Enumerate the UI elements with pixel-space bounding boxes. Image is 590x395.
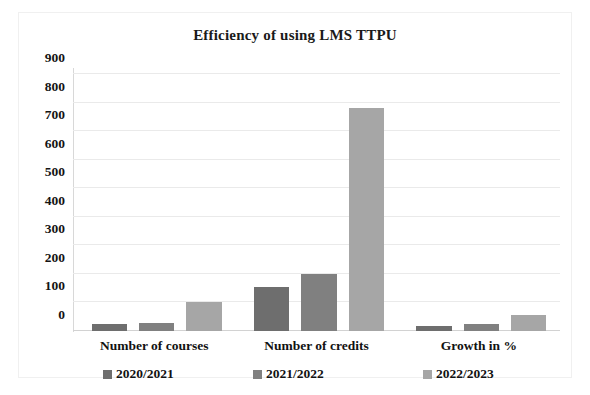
legend-swatch-icon <box>253 370 262 379</box>
chart-title: Efficiency of using LMS TTPU <box>19 27 571 44</box>
x-axis-label-3: Growth in % <box>398 338 560 354</box>
legend-label: 2022/2023 <box>436 366 494 382</box>
y-axis-tick-label: 900 <box>45 50 65 66</box>
bar[interactable] <box>464 324 499 331</box>
y-axis-tick-label: 200 <box>45 250 65 266</box>
bar[interactable] <box>416 326 451 331</box>
plot-area: 9008007006005004003002001000 <box>73 62 560 331</box>
legend-swatch-icon <box>103 370 112 379</box>
bar-group <box>92 74 222 331</box>
legend-item-2021-2022[interactable]: 2021/2022 <box>253 366 324 382</box>
x-axis-category-labels: Number of coursesNumber of creditsGrowth… <box>73 338 560 358</box>
chart-legend: 2020/20212021/20222022/2023 <box>73 366 573 388</box>
bars-layer <box>73 74 560 331</box>
plot-inner: 9008007006005004003002001000 <box>73 74 560 331</box>
bar[interactable] <box>511 315 546 331</box>
legend-swatch-icon <box>423 370 432 379</box>
y-axis-tick-label: 800 <box>45 79 65 95</box>
bar[interactable] <box>254 287 289 331</box>
y-axis-tick-label: 300 <box>45 221 65 237</box>
x-axis-label-2: Number of credits <box>235 338 397 354</box>
bar[interactable] <box>186 302 221 331</box>
y-axis-tick-label: 700 <box>45 107 65 123</box>
y-axis-tick-label: 0 <box>58 307 65 323</box>
y-axis-tick-label: 600 <box>45 136 65 152</box>
y-axis-tick-label: 100 <box>45 278 65 294</box>
bar[interactable] <box>139 323 174 331</box>
y-axis-tick-label: 500 <box>45 164 65 180</box>
x-axis-label-1: Number of courses <box>73 338 235 354</box>
legend-item-2022-2023[interactable]: 2022/2023 <box>423 366 494 382</box>
bar-group <box>254 74 384 331</box>
chart-frame: Efficiency of using LMS TTPU 90080070060… <box>18 12 572 378</box>
bar[interactable] <box>92 324 127 331</box>
bar[interactable] <box>301 274 336 331</box>
legend-label: 2020/2021 <box>116 366 174 382</box>
bar[interactable] <box>349 108 384 331</box>
bar-group <box>416 74 546 331</box>
legend-item-2020-2021[interactable]: 2020/2021 <box>103 366 174 382</box>
legend-label: 2021/2022 <box>266 366 324 382</box>
y-axis-tick-label: 400 <box>45 193 65 209</box>
